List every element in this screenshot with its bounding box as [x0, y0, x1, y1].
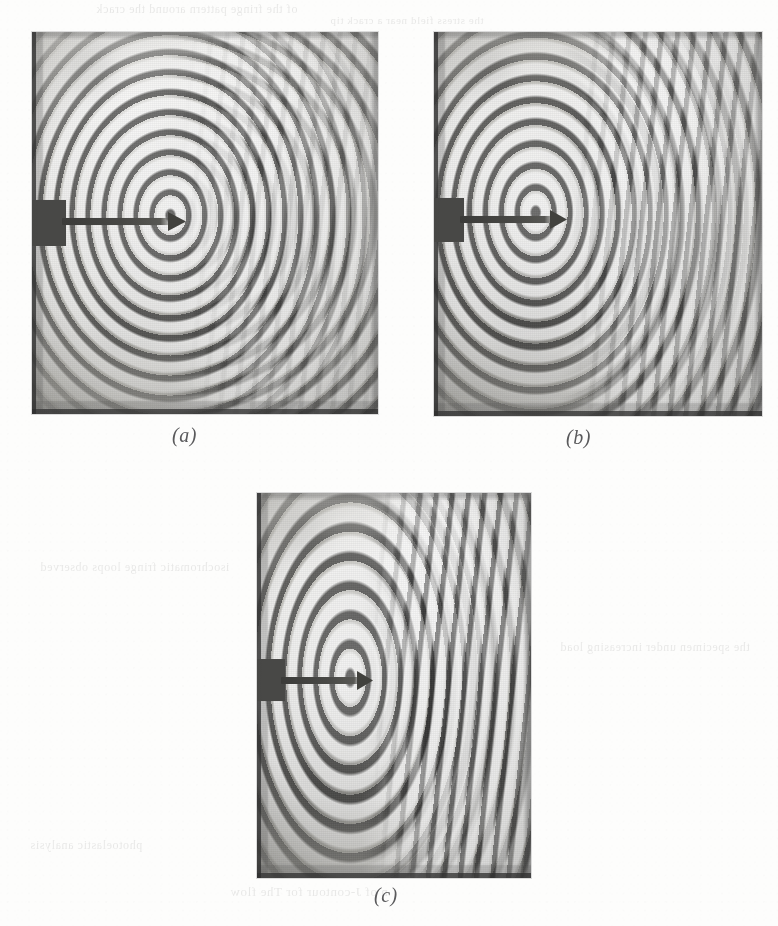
panel-a-vignette	[32, 32, 378, 414]
panel-b-vignette	[434, 32, 762, 416]
photo-panel-b	[434, 32, 762, 416]
photo-panel-c	[257, 493, 531, 878]
panel-c-caption: (c)	[374, 884, 398, 907]
photo-panel-a	[32, 32, 378, 414]
photoelastic-fringe-figure: (a) (b) (c)	[0, 0, 778, 926]
panel-c-vignette	[257, 493, 531, 878]
panel-b-caption: (b)	[566, 426, 591, 449]
panel-a-caption: (a)	[172, 424, 197, 447]
